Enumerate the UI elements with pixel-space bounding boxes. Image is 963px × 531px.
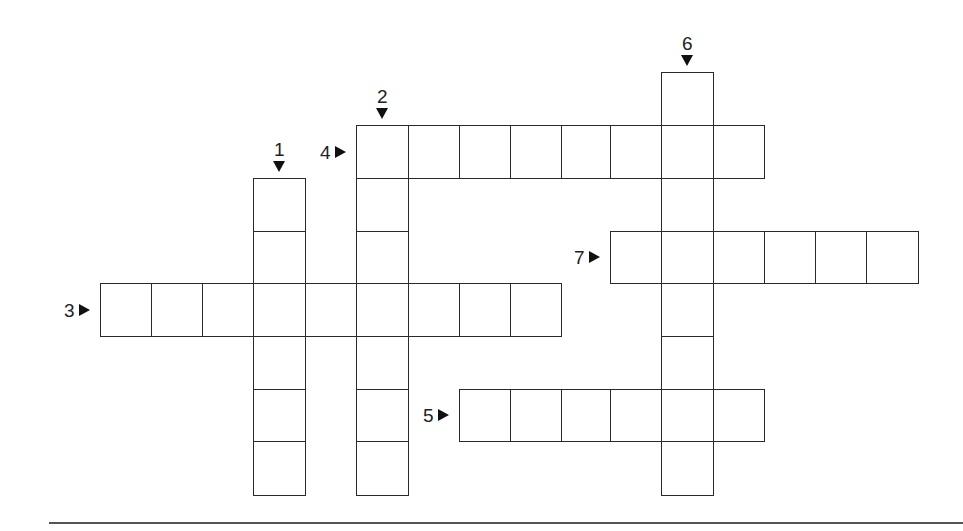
- grid-cell[interactable]: [713, 231, 765, 284]
- arrow-down-icon: [681, 55, 693, 66]
- grid-cell[interactable]: [661, 283, 714, 337]
- grid-cell[interactable]: [253, 336, 306, 390]
- clue-number-3: 3: [64, 301, 75, 320]
- clue-number-6: 6: [682, 34, 693, 53]
- grid-cell[interactable]: [408, 283, 460, 337]
- grid-cell[interactable]: [661, 231, 714, 284]
- clue-number-2: 2: [377, 87, 388, 106]
- arrow-right-icon: [79, 304, 90, 316]
- grid-cell[interactable]: [866, 231, 919, 284]
- grid-cell[interactable]: [253, 283, 306, 337]
- grid-cell[interactable]: [356, 231, 409, 284]
- grid-cell[interactable]: [253, 178, 306, 232]
- grid-cell[interactable]: [764, 231, 816, 284]
- grid-cell[interactable]: [459, 283, 511, 337]
- arrow-down-icon: [376, 108, 388, 119]
- grid-cell[interactable]: [815, 231, 867, 284]
- grid-cell[interactable]: [713, 389, 765, 442]
- grid-cell[interactable]: [510, 125, 562, 179]
- arrow-right-icon: [438, 409, 449, 421]
- grid-cell[interactable]: [561, 125, 611, 179]
- clue-number-7: 7: [574, 248, 585, 267]
- grid-cell[interactable]: [356, 441, 409, 496]
- grid-cell[interactable]: [713, 125, 765, 179]
- grid-cell[interactable]: [408, 125, 460, 179]
- grid-cell[interactable]: [100, 283, 152, 337]
- grid-cell[interactable]: [356, 389, 409, 442]
- grid-cell[interactable]: [661, 441, 714, 496]
- grid-cell[interactable]: [356, 336, 409, 390]
- divider-line: [49, 522, 963, 524]
- arrow-right-icon: [589, 251, 600, 263]
- arrow-down-icon: [273, 161, 285, 172]
- grid-cell[interactable]: [661, 389, 714, 442]
- grid-cell[interactable]: [561, 389, 611, 442]
- grid-cell[interactable]: [459, 125, 511, 179]
- grid-cell[interactable]: [661, 336, 714, 390]
- grid-cell[interactable]: [661, 72, 714, 126]
- clue-number-4: 4: [320, 143, 331, 162]
- grid-cell[interactable]: [202, 283, 254, 337]
- grid-cell[interactable]: [510, 389, 562, 442]
- grid-cell[interactable]: [356, 178, 409, 232]
- clue-number-5: 5: [423, 406, 434, 425]
- grid-cell[interactable]: [510, 283, 562, 337]
- clue-number-1: 1: [274, 140, 285, 159]
- grid-cell[interactable]: [459, 389, 511, 442]
- grid-cell[interactable]: [356, 283, 409, 337]
- grid-cell[interactable]: [356, 125, 409, 179]
- crossword-puzzle: 1234567: [0, 0, 963, 531]
- grid-cell[interactable]: [253, 231, 306, 284]
- arrow-right-icon: [335, 146, 346, 158]
- grid-cell[interactable]: [661, 178, 714, 232]
- grid-cell[interactable]: [610, 389, 662, 442]
- grid-cell[interactable]: [253, 441, 306, 496]
- grid-cell[interactable]: [610, 125, 662, 179]
- grid-cell[interactable]: [661, 125, 714, 179]
- grid-cell[interactable]: [305, 283, 357, 337]
- grid-cell[interactable]: [151, 283, 203, 337]
- grid-cell[interactable]: [253, 389, 306, 442]
- grid-cell[interactable]: [610, 231, 662, 284]
